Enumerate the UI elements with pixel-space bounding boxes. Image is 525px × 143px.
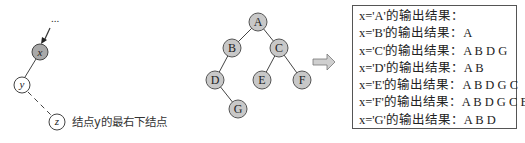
ellipsis-label: ... xyxy=(51,12,60,24)
edge-x-y xyxy=(25,59,36,77)
node-y-label: y xyxy=(19,78,25,90)
output-results-box: x='A'的输出结果： x='B'的输出结果：A x='C'的输出结果：A B … xyxy=(352,5,517,129)
tree-node-F-label: F xyxy=(299,73,306,87)
node-z-label: z xyxy=(54,115,60,127)
result-line-B: x='B'的输出结果：A xyxy=(359,25,516,42)
binary-tree xyxy=(215,22,302,109)
tree-nodes: A B C D E F G xyxy=(206,13,311,118)
right-arrow-icon xyxy=(313,54,335,70)
node-x-label: x xyxy=(37,46,43,58)
tree-node-B-label: B xyxy=(228,41,236,55)
edge-y-z-dashed xyxy=(28,92,51,115)
result-line-E: x='E'的输出结果：A B D G C xyxy=(359,77,516,94)
result-line-D: x='D'的输出结果：A B xyxy=(359,60,516,77)
left-subtree-diagram: ... x y z 结点y的最右下结点 xyxy=(14,12,167,130)
tree-node-G-label: G xyxy=(234,102,243,116)
node-z-annotation: 结点y的最右下结点 xyxy=(72,115,167,129)
tree-node-A-label: A xyxy=(254,15,263,29)
result-line-A: x='A'的输出结果： xyxy=(359,8,516,25)
tree-node-D-label: D xyxy=(211,73,220,87)
tree-node-C-label: C xyxy=(275,41,283,55)
result-line-F: x='F'的输出结果：A B D G C E xyxy=(359,94,516,111)
arrowhead-icon xyxy=(41,37,47,44)
tree-node-E-label: E xyxy=(258,73,265,87)
result-line-G: x='G'的输出结果：A B D xyxy=(359,112,516,129)
result-line-C: x='C'的输出结果：A B D G xyxy=(359,43,516,60)
